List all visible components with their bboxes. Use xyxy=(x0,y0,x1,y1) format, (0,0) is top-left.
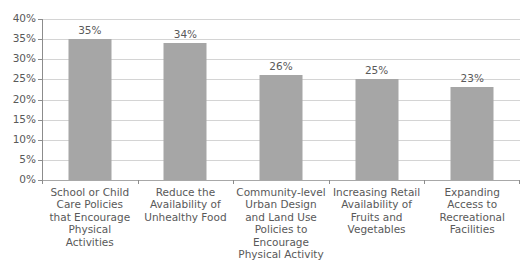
y-tick-label: 40% xyxy=(0,13,36,24)
category-label-line: Access to xyxy=(424,198,520,210)
y-axis-tick-labels: 40% 35% 30% 25% 20% 15% 10% 5% 0% xyxy=(0,0,36,273)
category-label-line: Increasing Retail xyxy=(329,186,425,198)
bar-value-label: 35% xyxy=(78,24,101,36)
y-tick-label: 15% xyxy=(0,114,36,125)
category-label-line: Reduce the xyxy=(138,186,234,198)
category-label-line: Encourage xyxy=(233,236,329,248)
x-tick-mark xyxy=(42,180,43,184)
y-tick-label: 5% xyxy=(0,154,36,165)
x-tick-mark xyxy=(519,180,520,184)
category-label-line: Community-level xyxy=(233,186,329,198)
x-axis-category-label: Reduce theAvailability ofUnhealthy Food xyxy=(138,186,234,223)
category-label-line: Policies to xyxy=(233,223,329,235)
y-tick-label: 30% xyxy=(0,53,36,64)
bar[interactable] xyxy=(259,75,302,180)
category-label-line: School or Child xyxy=(42,186,138,198)
category-label-line: Recreational xyxy=(424,211,520,223)
x-axis-category-label: ExpandingAccess toRecreationalFacilities xyxy=(424,186,520,236)
y-tick-label: 35% xyxy=(0,33,36,44)
x-axis-category-label: School or ChildCare Policiesthat Encoura… xyxy=(42,186,138,248)
y-tick-label: 25% xyxy=(0,73,36,84)
bar-slot: 26% xyxy=(233,19,329,180)
category-label-line: Physical Activity xyxy=(233,248,329,260)
category-label-line: and Land Use xyxy=(233,211,329,223)
x-axis-ticks xyxy=(42,180,520,185)
category-label-line: Vegetables xyxy=(329,223,425,235)
category-label-line: Availability of xyxy=(329,198,425,210)
category-label-line: that Encourage xyxy=(42,211,138,223)
x-tick-mark xyxy=(424,180,425,184)
category-label-line: Facilities xyxy=(424,223,520,235)
category-label-line: Availability of xyxy=(138,198,234,210)
bar-series: 35%34%26%25%23% xyxy=(42,19,520,180)
y-tick-label: 0% xyxy=(0,174,36,185)
bar-slot: 23% xyxy=(424,19,520,180)
category-label-line: Expanding xyxy=(424,186,520,198)
bar-value-label: 34% xyxy=(174,28,197,40)
y-tick-label: 10% xyxy=(0,134,36,145)
bar-slot: 34% xyxy=(138,19,234,180)
bar-slot: 35% xyxy=(42,19,138,180)
bar[interactable] xyxy=(451,87,494,180)
bar-chart: 40% 35% 30% 25% 20% 15% 10% 5% 0% 35%34%… xyxy=(0,0,528,273)
bar[interactable] xyxy=(164,43,207,180)
x-tick-mark xyxy=(138,180,139,184)
x-axis-category-label: Increasing RetailAvailability ofFruits a… xyxy=(329,186,425,236)
category-label-line: Fruits and xyxy=(329,211,425,223)
x-axis-category-labels: School or ChildCare Policiesthat Encoura… xyxy=(42,186,520,273)
y-tick-label: 20% xyxy=(0,94,36,105)
bar[interactable] xyxy=(355,79,398,180)
x-tick-mark xyxy=(329,180,330,184)
x-tick-mark xyxy=(233,180,234,184)
bar-value-label: 26% xyxy=(269,60,292,72)
bar-value-label: 25% xyxy=(365,64,388,76)
category-label-line: Physical xyxy=(42,223,138,235)
category-label-line: Urban Design xyxy=(233,198,329,210)
category-label-line: Unhealthy Food xyxy=(138,211,234,223)
x-axis-category-label: Community-levelUrban Designand Land UseP… xyxy=(233,186,329,260)
bar[interactable] xyxy=(68,39,111,180)
bar-value-label: 23% xyxy=(461,72,484,84)
category-label-line: Care Policies xyxy=(42,198,138,210)
bar-slot: 25% xyxy=(329,19,425,180)
category-label-line: Activities xyxy=(42,236,138,248)
